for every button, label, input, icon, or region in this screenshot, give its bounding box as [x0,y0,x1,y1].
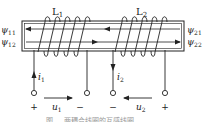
coil-winding-front [38,22,45,52]
coil-l2 [115,17,167,57]
terminal-1-plus [31,90,36,95]
coil-winding-bottom-loop [121,51,125,56]
terminal-2-minus [110,90,115,95]
coil-winding-front [145,22,152,52]
coil-l2-label-sub: 2 [143,11,147,19]
u2-sub: 2 [142,106,146,113]
u1-minus-sign: − [76,102,84,112]
magnetic-core [22,21,184,51]
coil-winding-front [58,22,65,52]
current-i1-label: i1 [38,72,45,83]
coil-winding-bottom-loop [141,51,145,56]
coil-l1-label-sub: 1 [59,11,63,19]
leads [34,50,165,90]
u2-plus-sign: + [161,102,169,112]
coupled-coils-diagram: L1 L2 ψ11 ψ12 ψ21 ψ22 i1 i2 + u1 − − u2 … [0,0,206,122]
coil-l1 [38,17,90,57]
flux-psi12-label: ψ12 [1,37,16,48]
u1-plus-sign: + [30,102,38,112]
voltage-u1-label: u1 [52,102,62,113]
flux-psi21-label: ψ21 [187,25,202,36]
coil-winding-bottom-loop [44,51,48,56]
u1-sub: 1 [58,106,62,113]
coil-winding-front [155,22,162,52]
coil-winding-front [135,22,142,52]
u2-minus-sign: − [109,102,117,112]
psi11-sub: 11 [8,29,16,36]
terminal-2-plus [162,90,167,95]
core-inner-border [25,24,182,49]
coil-winding-bottom-loop [131,51,135,56]
current-i2-label: i2 [117,72,124,83]
i2-sub: 2 [120,76,124,83]
psi12-sub: 12 [8,41,16,48]
coil-winding-bottom-loop [74,51,78,56]
voltage-u2-label: u2 [136,102,146,113]
flux-bottom-arrowhead-left-segment [92,40,98,45]
coil-winding-bottom-loop [54,51,58,56]
psi21-sub: 21 [194,29,202,36]
core-outer-border [22,21,184,51]
coil-l2-label: L2 [136,6,147,19]
coil-winding-front [115,22,122,52]
coil-winding-front [48,22,55,52]
coil-winding-bottom-loop [64,51,68,56]
current-i2-arrow [111,64,116,71]
psi22-sub: 22 [194,41,202,48]
flux-psi22-label: ψ22 [187,37,202,48]
i1-sub: 1 [41,76,45,83]
flux-top-arrowhead-right-segment [104,27,110,32]
terminal-1-minus [84,90,89,95]
coil-winding-front [78,22,85,52]
coil-winding-front [68,22,75,52]
flux-psi11-label: ψ11 [1,25,16,36]
coil-winding-bottom-loop [151,51,155,56]
figure-caption: 图 … 两耦合线圈的互感线圈 [46,116,134,122]
coil-winding-front [125,22,132,52]
current-i1-arrow [32,71,37,78]
